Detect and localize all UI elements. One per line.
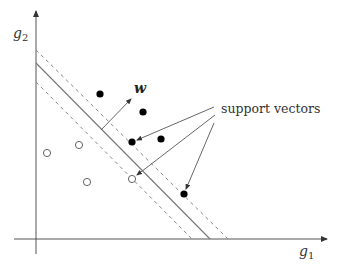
filled-point bbox=[157, 135, 164, 142]
normal-vector-arrow bbox=[101, 99, 131, 130]
y-axis-label: g2 bbox=[13, 25, 28, 43]
open-point bbox=[75, 141, 82, 148]
negative-class-points bbox=[43, 141, 135, 185]
svm-diagram: g2 g1 w support vectors bbox=[0, 0, 342, 272]
leader-arrow bbox=[137, 115, 215, 175]
normal-vector-label: w bbox=[134, 80, 147, 96]
open-point bbox=[43, 149, 50, 156]
filled-point-support-vector bbox=[180, 190, 187, 197]
x-axis-label: g1 bbox=[299, 243, 314, 261]
lower-margin-line bbox=[36, 82, 192, 239]
support-vectors-label: support vectors bbox=[221, 101, 320, 116]
decision-boundary-line bbox=[36, 63, 210, 239]
open-point-support-vector bbox=[128, 175, 135, 182]
positive-class-points bbox=[96, 90, 187, 197]
leader-arrow bbox=[137, 107, 214, 140]
filled-point bbox=[96, 90, 103, 97]
normal-vector: w bbox=[101, 80, 147, 130]
filled-point-support-vector bbox=[128, 138, 135, 145]
filled-point bbox=[139, 108, 146, 115]
leader-arrow bbox=[186, 123, 214, 189]
open-point bbox=[83, 178, 90, 185]
